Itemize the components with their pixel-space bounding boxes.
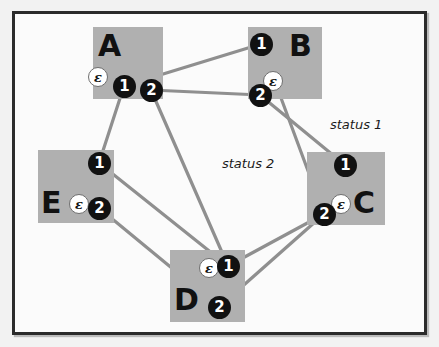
node-label-d: D <box>174 285 198 315</box>
port-c-1[interactable]: 1 <box>334 154 357 177</box>
port-a-1[interactable]: 1 <box>113 75 136 98</box>
edge-A2-B2 <box>151 90 260 95</box>
status-1-label: status 1 <box>330 117 382 132</box>
port-e-1[interactable]: 1 <box>88 152 111 175</box>
epsilon-marker-a: ε <box>88 67 108 87</box>
port-d-1[interactable]: 1 <box>217 255 240 278</box>
node-label-b: B <box>289 31 311 61</box>
port-b-1[interactable]: 1 <box>250 33 273 56</box>
port-a-2[interactable]: 2 <box>140 79 163 102</box>
port-b-2[interactable]: 2 <box>249 84 272 107</box>
node-label-e: E <box>41 188 61 218</box>
node-label-a: A <box>98 31 120 61</box>
port-c-2[interactable]: 2 <box>313 203 336 226</box>
network-status-diagram: ABCDEεεεεε1212121212 status 1status 2 <box>0 0 439 347</box>
node-label-c: C <box>353 188 374 218</box>
edge-A2-D1 <box>151 90 228 266</box>
status-2-label: status 2 <box>222 156 274 171</box>
port-e-2[interactable]: 2 <box>88 197 111 220</box>
port-d-2[interactable]: 2 <box>208 296 231 319</box>
epsilon-marker-e: ε <box>69 194 89 214</box>
epsilon-marker-d: ε <box>199 258 219 278</box>
